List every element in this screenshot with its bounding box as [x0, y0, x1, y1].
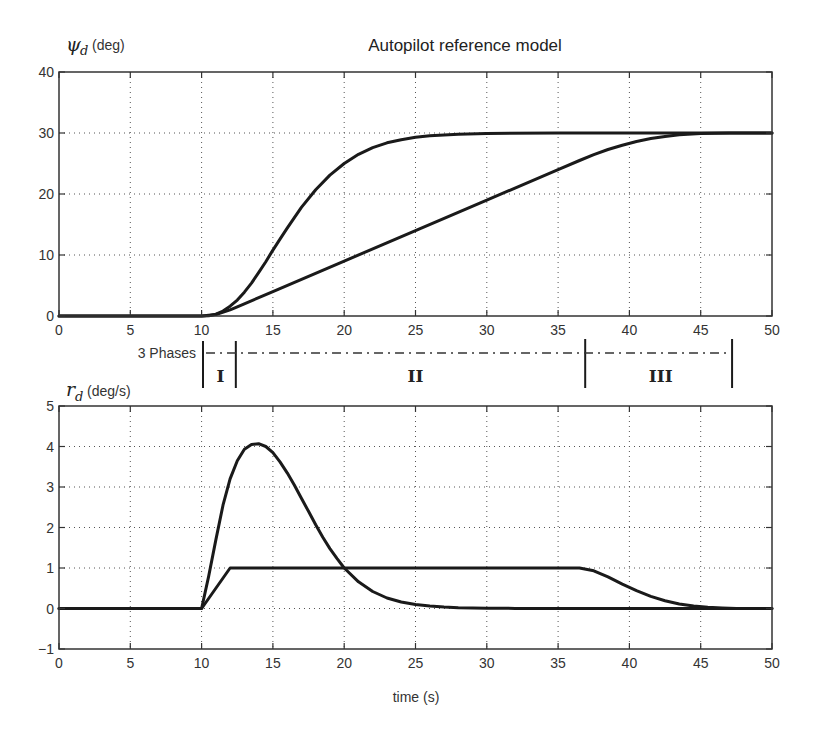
x-tick-label: 0: [55, 655, 63, 671]
x-tick-label: 25: [408, 322, 424, 338]
x-tick-label: 45: [693, 322, 709, 338]
y-tick-label: −1: [38, 641, 54, 657]
tick-labels: 05101520253035404550−1012345: [38, 398, 780, 671]
top-ylabel-subscript: d: [80, 43, 88, 58]
y-tick-label: 2: [46, 520, 54, 536]
tick-labels: 05101520253035404550010203040: [38, 64, 780, 338]
x-tick-label: 50: [764, 322, 780, 338]
x-tick-label: 35: [550, 322, 566, 338]
y-tick-label: 1: [46, 560, 54, 576]
series-line-2: [59, 133, 772, 316]
figure: Autopilot reference model ψ d (deg) 0510…: [0, 0, 819, 736]
grid-lines: [59, 72, 772, 316]
y-tick-label: 4: [46, 439, 54, 455]
y-tick-label: 0: [46, 308, 54, 324]
y-tick-label: 40: [38, 64, 54, 80]
bottom-ylabel-subscript: d: [75, 389, 83, 404]
x-tick-label: 30: [479, 655, 495, 671]
x-tick-label: 5: [126, 322, 134, 338]
x-tick-label: 15: [265, 322, 281, 338]
x-tick-label: 40: [622, 322, 638, 338]
series-line-1: [59, 133, 772, 316]
x-tick-label: 20: [336, 322, 352, 338]
top-ylabel-unit: (deg): [92, 37, 125, 53]
y-tick-label: 30: [38, 125, 54, 141]
x-tick-label: 15: [265, 655, 281, 671]
x-tick-label: 30: [479, 322, 495, 338]
bottom-ylabel-unit: (deg/s): [87, 383, 131, 399]
phases-label: 3 Phases: [138, 345, 196, 361]
top-ylabel: ψ d (deg): [66, 33, 125, 58]
y-tick-label: 3: [46, 479, 54, 495]
x-tick-label: 35: [550, 655, 566, 671]
phase-label-iii: III: [649, 366, 673, 386]
x-tick-label: 20: [336, 655, 352, 671]
phases-annotation: 3 Phases IIIIII: [138, 339, 732, 388]
x-axis-label: time (s): [393, 689, 440, 705]
axes-frame: [59, 72, 772, 316]
chart-title: Autopilot reference model: [368, 36, 562, 55]
x-tick-label: 0: [55, 322, 63, 338]
y-tick-label: 5: [46, 398, 54, 414]
y-tick-label: 0: [46, 601, 54, 617]
phase-label-ii: II: [408, 366, 424, 386]
x-tick-label: 10: [194, 322, 210, 338]
x-tick-label: 5: [126, 655, 134, 671]
x-tick-label: 45: [693, 655, 709, 671]
top-plot-psi: 05101520253035404550010203040: [38, 64, 780, 338]
y-tick-label: 20: [38, 186, 54, 202]
bottom-plot-r: 05101520253035404550−1012345: [38, 398, 780, 671]
phase-label-i: I: [216, 366, 224, 386]
bottom-ylabel: r d (deg/s): [66, 378, 131, 404]
x-tick-label: 40: [622, 655, 638, 671]
grid-lines: [59, 406, 772, 649]
x-tick-label: 50: [764, 655, 780, 671]
y-tick-label: 10: [38, 247, 54, 263]
x-tick-label: 10: [194, 655, 210, 671]
axes-frame: [59, 406, 772, 649]
series-line-2: [59, 568, 772, 609]
x-tick-label: 25: [408, 655, 424, 671]
